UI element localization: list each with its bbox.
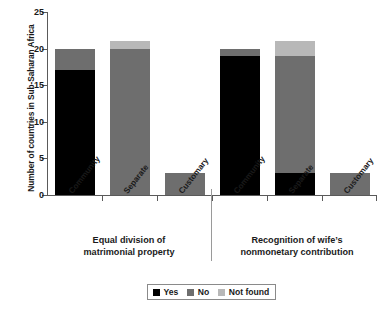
y-tick-label-5: 5 <box>39 153 44 163</box>
bar-segment-not-found <box>110 41 150 48</box>
x-tick-4 <box>267 196 268 201</box>
group-title-1: Recognition of wife’s nonmonetary contri… <box>213 234 381 258</box>
y-tick-label-20: 20 <box>34 44 44 54</box>
legend-swatch-no-icon <box>187 289 194 296</box>
plot-area: 0510152025 <box>47 12 377 196</box>
chart-legend: Yes No Not found <box>147 284 276 300</box>
group-title-0: Equal division of matrimonial property <box>47 234 211 258</box>
bar-segment-no <box>275 56 315 173</box>
bar-segment-no <box>220 49 260 56</box>
y-axis-title: Number of countries in Sub-Saharan Afric… <box>26 8 36 208</box>
x-tick-5 <box>322 196 323 201</box>
legend-item-no[interactable]: No <box>187 287 209 297</box>
x-tick-2 <box>157 196 158 201</box>
group-title-0-line2: matrimonial property <box>47 246 211 258</box>
x-tick-3 <box>212 196 213 201</box>
y-tick-label-10: 10 <box>34 117 44 127</box>
x-tick-1 <box>102 196 103 201</box>
group-title-1-line1: Recognition of wife’s <box>213 234 381 246</box>
legend-item-not-found[interactable]: Not found <box>218 287 269 297</box>
legend-label-not-found: Not found <box>229 287 270 297</box>
y-tick-label-15: 15 <box>34 80 44 90</box>
y-axis-line <box>47 12 48 196</box>
bar-segment-no <box>55 49 95 71</box>
group-title-1-line2: nonmonetary contribution <box>213 246 381 258</box>
bar-segment-not-found <box>275 41 315 56</box>
group-divider <box>211 189 212 261</box>
legend-item-yes[interactable]: Yes <box>153 287 178 297</box>
chart-container: Number of countries in Sub-Saharan Afric… <box>0 0 389 311</box>
legend-swatch-yes-icon <box>153 289 160 296</box>
x-tick-end <box>376 196 377 201</box>
legend-swatch-not-found-icon <box>218 289 225 296</box>
legend-label-no: No <box>198 287 209 297</box>
y-tick-label-0: 0 <box>39 190 44 200</box>
group-title-0-line1: Equal division of <box>47 234 211 246</box>
legend-label-yes: Yes <box>164 287 179 297</box>
y-tick-label-25: 25 <box>34 7 44 17</box>
